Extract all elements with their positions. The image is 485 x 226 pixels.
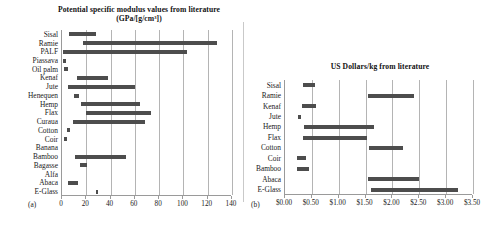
y-axis-category-label: Hemp xyxy=(247,123,281,130)
x-axis-tickmark xyxy=(284,195,285,198)
x-axis-tickmark xyxy=(418,195,419,198)
y-axis-category-label: Jute xyxy=(247,113,281,120)
y-axis-category-label: E-Glass xyxy=(247,186,281,193)
range-bar xyxy=(297,167,309,171)
chart-b-title: US Dollars/kg from literature xyxy=(300,62,460,71)
range-bar xyxy=(368,94,414,98)
y-axis-category-label: Kenaf xyxy=(247,103,281,110)
y-axis-category-label: Abaca xyxy=(247,176,281,183)
range-bar xyxy=(368,177,419,181)
x-axis-tickmark xyxy=(472,195,473,198)
chart-b-plot-area xyxy=(284,80,472,195)
range-bar xyxy=(298,115,301,119)
x-axis-tick-label: $3.50 xyxy=(452,199,485,207)
y-axis-category-label: Flax xyxy=(247,134,281,141)
range-bar xyxy=(304,125,374,129)
x-axis-tickmark xyxy=(338,195,339,198)
y-axis-category-label: Cotton xyxy=(247,144,281,151)
x-axis-tickmark xyxy=(311,195,312,198)
y-axis-category-label: Bamboo xyxy=(247,165,281,172)
y-axis-category-label: Ramie xyxy=(247,92,281,99)
range-bar xyxy=(302,104,315,108)
range-bar xyxy=(369,146,403,150)
range-bar xyxy=(297,156,307,160)
range-bar xyxy=(371,188,458,192)
panel-b-letter: (b) xyxy=(251,200,260,209)
x-axis-tickmark xyxy=(445,195,446,198)
y-axis-category-label: Sisal xyxy=(247,82,281,89)
y-axis-category-label: Coir xyxy=(247,155,281,162)
gridline xyxy=(473,80,474,194)
x-axis-tickmark xyxy=(365,195,366,198)
range-bar xyxy=(303,136,367,140)
x-axis-tickmark xyxy=(391,195,392,198)
gridline xyxy=(419,80,420,194)
range-bar xyxy=(303,83,315,87)
gridline xyxy=(446,80,447,194)
